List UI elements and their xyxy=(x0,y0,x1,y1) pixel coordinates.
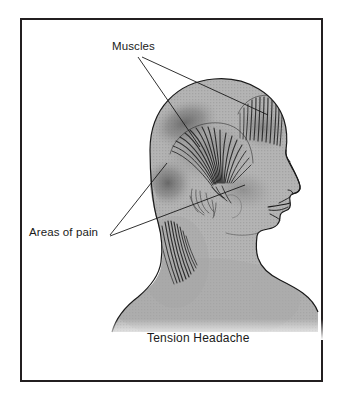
label-areas-of-pain: Areas of pain xyxy=(29,226,98,238)
label-muscles: Muscles xyxy=(112,40,155,52)
figure-caption: Tension Headache xyxy=(147,331,250,345)
figure-root: Muscles Areas of pain Tension Headache xyxy=(0,0,343,398)
